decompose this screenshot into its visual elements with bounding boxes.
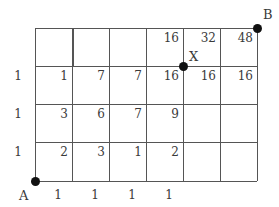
node-value: 9 xyxy=(149,108,179,120)
bottom-label: 1 xyxy=(69,189,99,201)
node-value: 1 xyxy=(112,146,142,158)
node-value: 7 xyxy=(75,70,105,82)
point-x-label: X xyxy=(189,50,198,63)
bottom-label: 1 xyxy=(32,189,62,201)
point-a-label: A xyxy=(19,189,28,202)
node-value: 3 xyxy=(38,108,68,120)
node-value: 16 xyxy=(223,70,253,82)
node-value: 16 xyxy=(149,32,179,44)
point-a-dot xyxy=(31,177,40,186)
node-value: 16 xyxy=(186,70,216,82)
grid-diagram: AXB163248177161616367923121111111 xyxy=(0,0,279,207)
row-label: 1 xyxy=(0,108,22,120)
node-value: 1 xyxy=(38,70,68,82)
node-value: 2 xyxy=(38,146,68,158)
node-value: 7 xyxy=(112,70,142,82)
bottom-label: 1 xyxy=(143,189,173,201)
point-b-dot xyxy=(253,24,262,33)
node-value: 48 xyxy=(223,32,253,44)
node-value: 3 xyxy=(75,146,105,158)
point-b-label: B xyxy=(263,8,273,21)
node-value: 7 xyxy=(112,108,142,120)
bottom-label: 1 xyxy=(106,189,136,201)
node-value: 6 xyxy=(75,108,105,120)
row-label: 1 xyxy=(0,146,22,158)
row-label: 1 xyxy=(0,70,22,82)
node-value: 32 xyxy=(186,32,216,44)
node-value: 2 xyxy=(149,146,179,158)
node-value: 16 xyxy=(149,70,179,82)
